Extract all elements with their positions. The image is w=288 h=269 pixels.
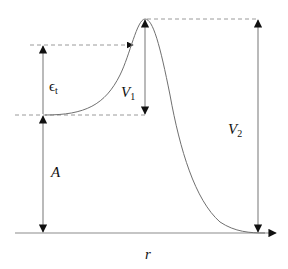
a-label: A (51, 165, 60, 180)
v1-symbol: V (121, 84, 130, 100)
v2-symbol: V (228, 121, 237, 137)
epsilon-subscript: t (55, 85, 58, 96)
a-symbol: A (51, 164, 60, 180)
v1-subscript: 1 (130, 91, 135, 102)
v1-label: V1 (121, 85, 135, 102)
v2-label: V2 (228, 122, 242, 139)
potential-diagram (0, 0, 288, 269)
r-symbol: r (145, 246, 151, 262)
v2-subscript: 2 (237, 128, 242, 139)
epsilon-t-label: ϵt (49, 79, 58, 96)
r-label: r (145, 247, 151, 262)
